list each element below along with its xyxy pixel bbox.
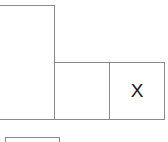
cell-middle[interactable]: [54, 62, 110, 120]
cell-right[interactable]: X: [109, 62, 165, 120]
x-mark: X: [110, 63, 164, 119]
cell-tall-left[interactable]: [0, 5, 55, 120]
cell-mark: [6, 138, 59, 142]
cell-bottom-left[interactable]: [5, 137, 60, 142]
cell-mark: [0, 6, 54, 119]
cell-mark: [55, 63, 109, 119]
